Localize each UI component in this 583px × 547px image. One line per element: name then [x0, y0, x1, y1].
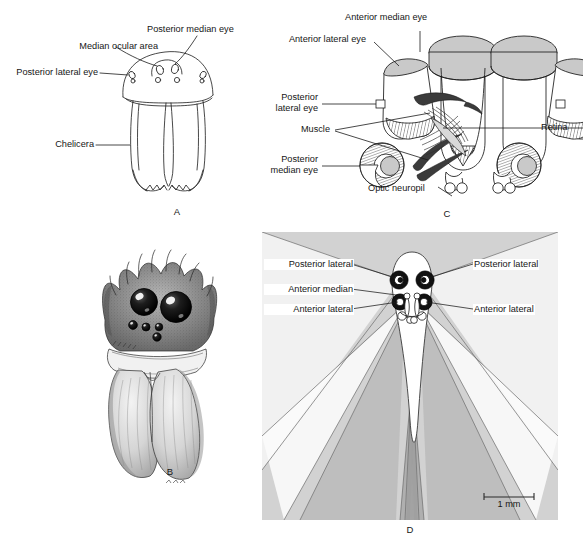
panel-d: [0, 0, 583, 547]
panel-d-drawing: [0, 0, 583, 547]
label-posterior-lateral-left: Posterior lateral: [264, 259, 354, 270]
label-anterior-lateral-right: Anterior lateral: [473, 304, 535, 315]
scale-bar-label: 1 mm: [484, 499, 534, 510]
label-anterior-median: Anterior median: [264, 284, 354, 295]
label-anterior-lateral-left: Anterior lateral: [264, 304, 354, 315]
panel-letter-d: D: [395, 524, 425, 535]
label-posterior-lateral-right: Posterior lateral: [473, 259, 539, 270]
